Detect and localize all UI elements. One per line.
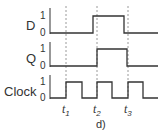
timing-diagram: D Q Clock 1 0 1 0 1 0 t1 t2 t3 d) [0,0,166,138]
level-d-low: 0 [40,27,46,38]
signal-label-clock: Clock [4,84,37,99]
level-clock-high: 1 [40,76,46,87]
level-q-high: 1 [40,43,46,54]
figure-caption: d) [96,118,106,130]
marker-t3-label: t3 [124,102,132,118]
signal-label-d: D [26,18,35,33]
level-q-low: 0 [40,60,46,71]
waveform-clock [50,82,158,98]
marker-t2-label: t2 [93,102,101,118]
marker-t1-label: t1 [62,102,70,118]
signal-label-q: Q [26,51,36,66]
level-d-high: 1 [40,10,46,21]
level-clock-low: 0 [40,92,46,103]
